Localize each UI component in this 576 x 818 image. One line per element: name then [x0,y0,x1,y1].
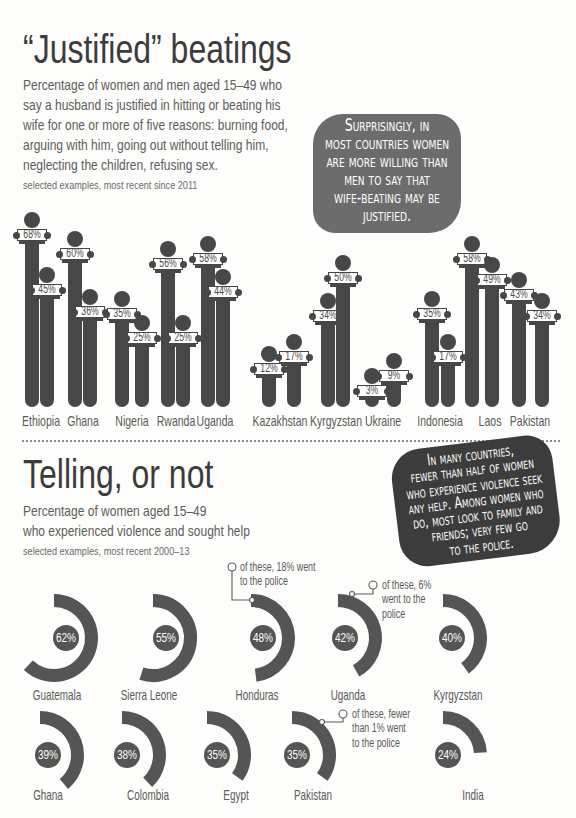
hand-icon [523,313,530,320]
person-head-icon [464,236,480,252]
percent-value: 62% [56,631,76,645]
percent-value: 58% [199,253,216,264]
bar-body [485,287,499,407]
person-head-icon [200,236,216,252]
percent-circle: 42% [332,625,358,651]
person-head-icon [160,241,176,257]
person-head-icon [484,257,500,273]
infographic-page: “Justified” beatings Percentage of women… [0,0,576,818]
country-label: Egypt [223,787,248,803]
country-label: India [462,787,483,803]
bar-body [336,285,350,407]
annotation-line: to the police [352,736,410,751]
percent-value: 35% [423,308,440,319]
bar-body [40,297,54,407]
country-label: Guatemala [33,687,81,703]
arc-point-marker-icon [350,592,355,597]
bar-body [135,345,149,407]
hand-icon [250,366,257,373]
connector-line [355,589,373,594]
hand-icon [28,287,35,294]
bar-body [83,319,97,407]
percent-value: 50% [334,272,351,283]
hand-icon [13,232,20,239]
country-label: Kyrgyzstan [434,687,483,703]
hand-icon [309,313,316,320]
hand-icon [189,256,196,263]
arc-point-marker-icon [250,598,255,603]
hand-icon [164,335,171,342]
percent-value: 56% [159,258,176,269]
person-head-icon [386,353,402,369]
percent-sign: 35% [417,308,447,320]
arc-point-marker-icon [320,720,325,725]
percent-value: 38% [117,748,137,762]
percent-circle: 38% [114,742,140,768]
percent-circle: 40% [439,625,465,651]
person-head-icon [82,289,98,305]
hand-icon [204,289,211,296]
country-label: Sierra Leone [121,687,178,703]
hand-icon [275,354,282,361]
figure-men-bar: 44% [203,269,243,407]
hand-icon [453,256,460,263]
country-label: Uganda [331,687,366,703]
annotation-pakistan: of these, fewer than 1% went to the poli… [352,707,410,751]
hand-icon [473,277,480,284]
percent-circle: 35% [204,742,230,768]
percent-value: 60% [66,248,83,259]
annotation-line: of these, fewer [352,707,410,722]
hand-icon [71,309,78,316]
percent-value: 55% [156,631,176,645]
annotation-line: police [382,607,431,622]
hand-icon [324,275,331,282]
hand-icon [103,311,110,318]
country-label: Ghana [33,787,63,803]
percent-circle: 39% [35,742,61,768]
annotation-line: of these, 6% [382,578,431,593]
hand-icon [56,251,63,258]
pakistan-annotation-connector [320,710,348,725]
percent-value: 9% [388,370,400,381]
hand-icon [123,335,130,342]
hand-icon [429,354,436,361]
hand-icon [500,292,507,299]
bar-body [216,299,230,407]
percent-value: 44% [214,286,231,297]
radial-arc-chart [0,0,576,818]
ring-marker-icon [369,581,377,589]
percent-value: 45% [38,284,55,295]
annotation-line: of these, 18% went [240,560,315,575]
percent-sign: 44% [208,286,238,298]
percent-circle: 55% [153,625,179,651]
percent-value: 17% [285,351,302,362]
percent-sign: 60% [60,248,90,260]
percent-circle: 35% [284,742,310,768]
country-label: Honduras [236,687,279,703]
percent-value: 35% [207,748,227,762]
percent-value: 36% [81,306,98,317]
percent-sign: 50% [328,272,358,284]
person-head-icon [424,291,440,307]
person-head-icon [67,231,83,247]
country-label: Colombia [127,787,169,803]
percent-circle: 24% [435,742,461,768]
country-label: Pakistan [294,787,332,803]
percent-value: 39% [38,748,58,762]
person-head-icon [511,272,527,288]
percent-value: 68% [23,229,40,240]
hand-icon [554,313,561,320]
hand-icon [375,373,382,380]
connector-line [325,718,343,722]
percent-sign: 68% [17,229,47,241]
percent-value: 40% [442,631,462,645]
hand-icon [44,232,51,239]
percent-value: 24% [438,748,458,762]
hand-icon [353,388,360,395]
hand-icon [355,275,362,282]
hand-icon [180,261,187,268]
person-head-icon [335,255,351,271]
annotation-line: than 1% went [352,721,410,736]
ring-marker-icon [228,563,236,571]
figure-men-bar: 34% [522,293,562,407]
